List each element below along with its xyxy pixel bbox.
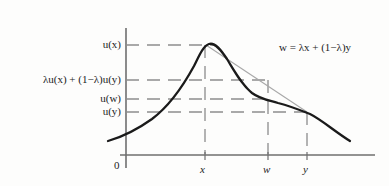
x-label-w: w	[263, 164, 270, 175]
chord-line	[206, 45, 307, 112]
plot-canvas	[0, 0, 389, 186]
y-label-u-x: u(x)	[103, 39, 121, 50]
convexity-figure: u(x) λu(x) + (1−λ)u(y) u(w) u(y) 0 x w y…	[0, 0, 389, 186]
y-label-u-w: u(w)	[100, 93, 121, 104]
y-label-convex-combination: λu(x) + (1−λ)u(y)	[43, 74, 121, 85]
equation-annotation: w = λx + (1−λ)y	[279, 42, 351, 53]
origin-label: 0	[114, 160, 120, 171]
x-label-x: x	[200, 164, 205, 175]
x-label-y: y	[303, 164, 308, 175]
y-label-u-y: u(y)	[103, 106, 121, 117]
utility-curve	[108, 44, 350, 141]
